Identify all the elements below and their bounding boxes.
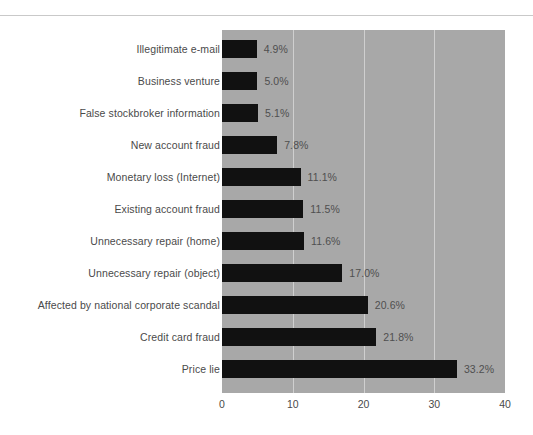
bar-value-label: 11.5% <box>310 203 340 215</box>
bar-row: Unnecessary repair (home)11.6% <box>0 232 533 250</box>
category-label: Monetary loss (Internet) <box>107 171 220 183</box>
bar-row: False stockbroker information5.1% <box>0 104 533 122</box>
bar <box>222 168 301 186</box>
category-label: New account fraud <box>131 139 220 151</box>
bar-value-label: 5.0% <box>264 75 288 87</box>
x-tick-label: 30 <box>428 398 440 410</box>
bar-value-label: 5.1% <box>265 107 289 119</box>
bar-row: New account fraud7.8% <box>0 136 533 154</box>
category-label: False stockbroker information <box>79 107 220 119</box>
category-label: Illegitimate e-mail <box>136 43 220 55</box>
x-tick-label: 0 <box>219 398 225 410</box>
category-label: Business venture <box>138 75 220 87</box>
bar-value-label: 21.8% <box>383 331 413 343</box>
category-label: Price lie <box>182 363 220 375</box>
category-label: Unnecessary repair (object) <box>88 267 220 279</box>
bar-rows-layer: Illegitimate e-mail4.9%Business venture5… <box>0 0 533 435</box>
bar-value-label: 11.6% <box>311 235 341 247</box>
bar-row: Credit card fraud21.8% <box>0 328 533 346</box>
bar-value-label: 17.0% <box>349 267 379 279</box>
category-label: Credit card fraud <box>140 331 220 343</box>
bar <box>222 296 368 314</box>
category-label: Affected by national corporate scandal <box>38 299 220 311</box>
bar-row: Existing account fraud11.5% <box>0 200 533 218</box>
bar-row: Price lie33.2% <box>0 360 533 378</box>
bar-row: Affected by national corporate scandal20… <box>0 296 533 314</box>
x-tick-label: 40 <box>499 398 511 410</box>
bar <box>222 40 257 58</box>
bar <box>222 136 277 154</box>
bar <box>222 264 342 282</box>
bar-value-label: 33.2% <box>464 363 494 375</box>
bar <box>222 232 304 250</box>
bar-row: Unnecessary repair (object)17.0% <box>0 264 533 282</box>
category-label: Unnecessary repair (home) <box>90 235 220 247</box>
bar-value-label: 20.6% <box>375 299 405 311</box>
bar-chart: Illegitimate e-mail4.9%Business venture5… <box>0 0 533 435</box>
bar-row: Business venture5.0% <box>0 72 533 90</box>
bar-row: Monetary loss (Internet)11.1% <box>0 168 533 186</box>
category-label: Existing account fraud <box>114 203 220 215</box>
bar <box>222 104 258 122</box>
bar-row: Illegitimate e-mail4.9% <box>0 40 533 58</box>
bar <box>222 328 376 346</box>
x-tick-label: 10 <box>287 398 299 410</box>
bar-value-label: 7.8% <box>284 139 308 151</box>
bar-value-label: 4.9% <box>264 43 288 55</box>
bar <box>222 72 257 90</box>
bar <box>222 200 303 218</box>
bar <box>222 360 457 378</box>
bar-value-label: 11.1% <box>308 171 338 183</box>
x-axis-tick-labels: 010203040 <box>0 398 533 414</box>
x-tick-label: 20 <box>358 398 370 410</box>
